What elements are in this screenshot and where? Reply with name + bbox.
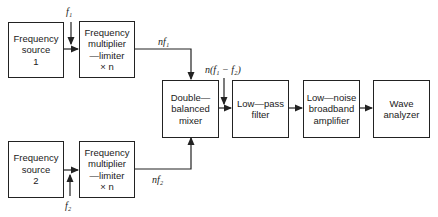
mixer-box: Double— balanced mixer bbox=[162, 80, 219, 138]
low-pass-filter-box: Low—pass filter bbox=[232, 80, 289, 138]
f2-label: f₂ bbox=[65, 200, 71, 211]
amplifier-label: Low—noise broadband amplifier bbox=[307, 92, 357, 127]
frequency-multiplier-2-box: Frequency multiplier —limiter × n bbox=[79, 141, 135, 198]
frequency-multiplier-2-label: Frequency multiplier —limiter × n bbox=[85, 147, 130, 193]
f1-label: f₁ bbox=[66, 6, 72, 17]
mixer-label: Double— balanced mixer bbox=[171, 92, 211, 127]
frequency-source-1-box: Frequency source 1 bbox=[8, 22, 64, 78]
frequency-source-2-label: Frequency source 2 bbox=[14, 152, 59, 187]
difference-frequency-label: n(f₁ − f₂) bbox=[205, 64, 241, 75]
nf1-label: nf₁ bbox=[158, 36, 169, 47]
amplifier-box: Low—noise broadband amplifier bbox=[303, 80, 360, 138]
wave-analyzer-label: Wave analyzer bbox=[384, 98, 420, 121]
frequency-source-1-label: Frequency source 1 bbox=[14, 33, 59, 68]
nf2-label: nf₂ bbox=[152, 174, 163, 185]
frequency-multiplier-1-box: Frequency multiplier —limiter × n bbox=[79, 21, 135, 78]
frequency-multiplier-1-label: Frequency multiplier —limiter × n bbox=[85, 27, 130, 73]
wave-analyzer-box: Wave analyzer bbox=[373, 80, 430, 138]
frequency-source-2-box: Frequency source 2 bbox=[8, 141, 64, 198]
low-pass-filter-label: Low—pass filter bbox=[237, 98, 284, 121]
